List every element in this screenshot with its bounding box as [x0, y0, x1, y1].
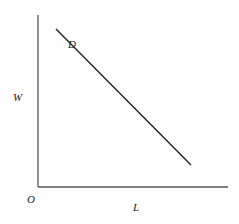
- origin-label: O: [27, 193, 35, 205]
- diagram-canvas: D W O L: [0, 0, 239, 224]
- diagram-svg: D W O L: [0, 0, 239, 224]
- y-axis-label: W: [13, 91, 23, 103]
- curve-d-line: [56, 29, 191, 165]
- x-axis-label: L: [132, 201, 139, 213]
- curve-d-label: D: [67, 38, 76, 50]
